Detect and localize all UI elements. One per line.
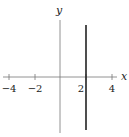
x-axis-label: x [121, 70, 128, 83]
x-tick-label: 4 [109, 83, 115, 94]
x-tick-label: 2 [78, 83, 84, 94]
x-tick-label: −2 [28, 83, 43, 94]
x-tick-label: −4 [2, 83, 17, 94]
plot-canvas: −4 −2 2 4 x y [0, 0, 129, 137]
y-axis-label: y [55, 4, 63, 17]
